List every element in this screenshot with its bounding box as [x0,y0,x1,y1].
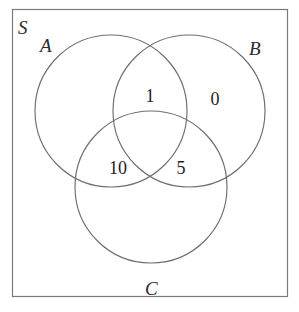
venn-diagram-canvas: S A B C 1 0 10 5 [0,0,299,312]
set-c-circle [75,111,227,263]
region-value-a-and-c: 10 [109,158,127,178]
set-label-b: B [249,38,261,59]
set-label-c: C [145,278,158,299]
set-b-circle [113,35,265,187]
universal-set-rectangle [13,10,288,297]
venn-diagram-figure: S A B C 1 0 10 5 [0,0,299,312]
universal-set-label: S [18,17,28,38]
region-value-b-only: 0 [211,89,220,109]
region-value-b-and-c: 5 [177,158,186,178]
set-label-a: A [38,35,52,56]
region-value-a-and-b: 1 [146,86,155,106]
